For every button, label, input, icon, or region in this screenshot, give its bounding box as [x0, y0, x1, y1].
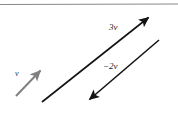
vector-arrow-v [16, 71, 41, 97]
vector-diagram: v 3v −2v [0, 0, 178, 117]
vector-label-3v: 3v [109, 23, 118, 32]
vector-arrow-minus-2v [90, 40, 160, 100]
vector-arrow-3v [42, 18, 149, 103]
vector-diagram-canvas [0, 0, 178, 117]
vector-label-minus-2v: −2v [103, 62, 118, 71]
horizontal-rule [0, 4, 178, 5]
vector-label-v: v [15, 70, 19, 78]
